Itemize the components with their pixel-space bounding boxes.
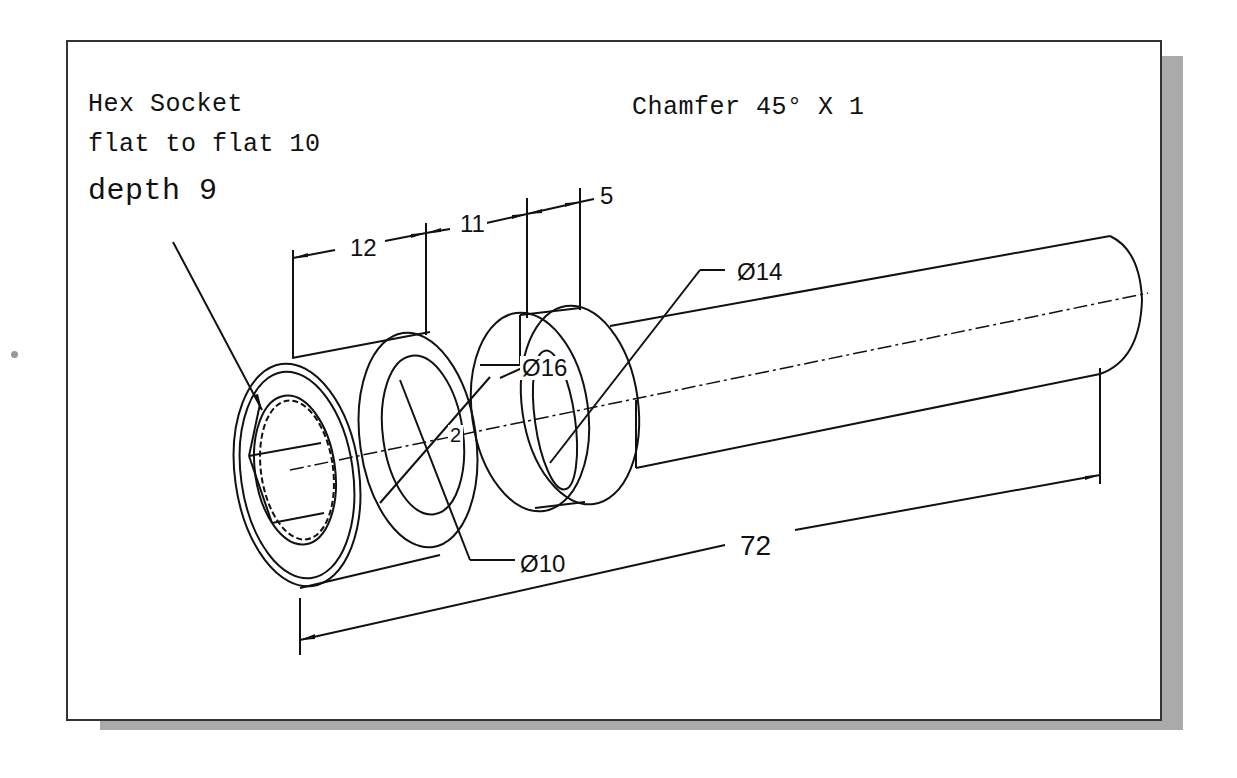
flange-disc — [346, 325, 491, 555]
hex-socket-note-line1: Hex Socket — [88, 90, 243, 119]
hex-socket-note-line2: flat to flat 10 — [88, 130, 321, 159]
dimension-collar-length: 5 — [598, 184, 615, 208]
chamfer-note: Chamfer 45° X 1 — [632, 93, 865, 122]
dimension-shaft-diameter: Ø14 — [735, 260, 784, 284]
dimension-gap-length: 11 — [458, 212, 487, 236]
dimension-head-diameter: Ø10 — [518, 552, 567, 576]
dimension-radius: 2 — [448, 425, 463, 445]
dimension-collar-diameter: Ø16 — [520, 356, 569, 380]
center-line — [290, 293, 1148, 470]
collar-disc — [459, 298, 652, 519]
dimension-head-length: 12 — [348, 236, 379, 260]
dimension-total-length: 72 — [738, 532, 773, 560]
shaft-cylinder — [610, 236, 1142, 468]
head-cylinder — [220, 332, 440, 595]
hex-socket-note-line3: depth 9 — [88, 174, 218, 208]
